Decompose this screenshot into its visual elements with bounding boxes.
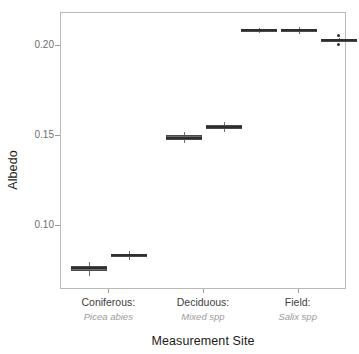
box-median-line [166, 137, 202, 139]
plot-panel [60, 12, 346, 289]
y-tick-label: 0.15 [20, 129, 54, 140]
x-tick-label: Deciduous: [148, 296, 258, 308]
x-tick-group-coniferous: Coniferous:Picea abies [53, 296, 163, 322]
y-tick-0.20: 0.20 [20, 39, 54, 51]
x-tick-group-deciduous: Deciduous:Mixed spp [148, 296, 258, 322]
box-median-line [206, 126, 242, 128]
x-axis-title: Measurement Site [60, 334, 346, 348]
y-tick-label: 0.20 [20, 39, 54, 50]
x-tick-sublabel: Mixed spp [148, 311, 258, 322]
box-median-line [111, 254, 147, 256]
box-median-line [241, 29, 277, 31]
box-median-line [71, 267, 107, 269]
x-tick-sublabel: Picea abies [53, 311, 163, 322]
x-tick-label: Coniferous: [53, 296, 163, 308]
box-outlier-point [337, 43, 340, 46]
box-outlier-point [337, 34, 340, 37]
y-axis-title: Albedo [6, 140, 20, 200]
box-median-line [321, 39, 357, 41]
y-tick-0.15: 0.15 [20, 129, 54, 141]
x-tick-label: Field: [243, 296, 353, 308]
box-median-line [281, 29, 317, 31]
x-tick-sublabel: Salix spp [243, 311, 353, 322]
y-tick-0.10: 0.10 [20, 219, 54, 231]
x-tick-group-field: Field:Salix spp [243, 296, 353, 322]
boxplot-chart: Albedo Measurement Site 0.100.150.20 Con… [0, 0, 359, 354]
y-tick-label: 0.10 [20, 219, 54, 230]
